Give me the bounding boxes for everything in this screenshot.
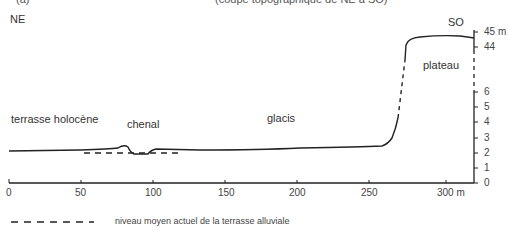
x-tick-50: 50: [75, 187, 86, 198]
x-tick-300: 300 m: [437, 187, 465, 198]
y-tick-1: 1: [484, 162, 490, 173]
y-tick-0: 0: [484, 177, 490, 188]
y-tick-6: 6: [484, 86, 490, 97]
profile-diagram: [0, 0, 509, 233]
x-tick-150: 150: [218, 187, 235, 198]
y-tick-44: 44: [484, 41, 495, 52]
x-tick-100: 100: [145, 187, 162, 198]
y-tick-3: 3: [484, 132, 490, 143]
y-tick-45: 45 m: [484, 26, 506, 37]
x-tick-200: 200: [289, 187, 306, 198]
x-tick-250: 250: [361, 187, 378, 198]
legend-label: niveau moyen actuel de la terrasse alluv…: [115, 216, 290, 226]
y-tick-4: 4: [484, 116, 490, 127]
y-tick-2: 2: [484, 147, 490, 158]
x-tick-0: 0: [6, 187, 12, 198]
y-tick-5: 5: [484, 101, 490, 112]
